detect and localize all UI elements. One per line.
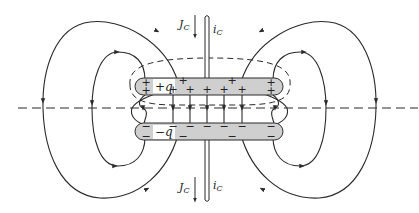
outer-field-loop-left xyxy=(43,22,178,199)
current-density-label-top: JC xyxy=(177,18,190,32)
svg-text:+: + xyxy=(237,83,246,96)
current-density-label-bottom: JC xyxy=(177,181,190,195)
svg-text:−: − xyxy=(237,120,246,133)
capacitor-field-diagram: + + + + + + + + + + + − − − − − − − − − … xyxy=(0,0,419,213)
outer-field-loop-right xyxy=(241,22,376,199)
current-label-top: iC xyxy=(213,23,223,37)
svg-text:−: − xyxy=(178,130,187,143)
wire-bottom xyxy=(205,140,209,202)
wire-top xyxy=(205,16,209,79)
top-plate-charge-label: +q xyxy=(155,80,173,94)
svg-text:+: + xyxy=(141,84,150,97)
gap-field-lines xyxy=(143,95,275,123)
svg-text:+: + xyxy=(227,74,236,87)
bottom-plate-charge-label: −q xyxy=(155,125,173,139)
current-label-bottom: iC xyxy=(213,179,223,193)
inner-field-loop-left xyxy=(92,52,145,166)
svg-text:−: − xyxy=(266,130,275,143)
svg-text:−: − xyxy=(202,120,211,133)
svg-text:+: + xyxy=(266,84,275,97)
svg-text:+: + xyxy=(202,83,211,96)
svg-text:−: − xyxy=(227,130,236,143)
svg-text:+: + xyxy=(185,83,194,96)
inner-field-loop-right xyxy=(273,52,326,166)
svg-text:−: − xyxy=(141,130,150,143)
